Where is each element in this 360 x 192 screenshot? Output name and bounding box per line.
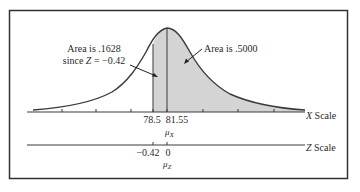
left-area-annotation-line1: Area is .1628 <box>67 43 121 54</box>
mu-x-label: μX <box>164 127 175 139</box>
left-area-annotation-line2: since Z = −0.42 <box>63 55 125 66</box>
normal-curve-figure: 78.5 81.55 μX X Scale −0.42 0 μZ Z Scale… <box>0 0 360 192</box>
right-area-annotation: Area is .5000 <box>204 43 258 54</box>
z-scale-label: Z Scale <box>306 142 336 153</box>
x-tick-81-55: 81.55 <box>166 114 189 125</box>
z-tick-neg-0-42: −0.42 <box>136 147 159 158</box>
mu-z-label: μZ <box>162 159 172 171</box>
x-scale-label: X Scale <box>305 110 337 121</box>
shaded-area <box>153 28 305 112</box>
x-tick-78-5: 78.5 <box>143 114 161 125</box>
z-tick-0: 0 <box>166 147 171 158</box>
